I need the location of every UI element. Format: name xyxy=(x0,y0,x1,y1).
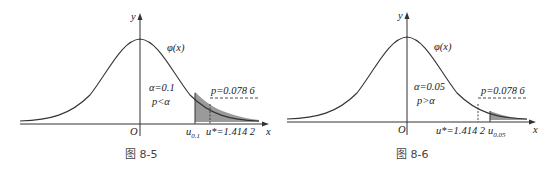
caption-8-6: 图 8-6 xyxy=(396,145,428,161)
alpha-label: α=0.05 xyxy=(414,82,445,93)
y-axis-label: y xyxy=(398,11,403,22)
caption-8-5: 图 8-5 xyxy=(125,145,157,161)
ustar-label: u*=1.414 2 xyxy=(436,126,485,137)
curve-label: φ(x) xyxy=(434,42,451,53)
figures-canvas xyxy=(0,0,554,173)
curve-label: φ(x) xyxy=(167,43,184,54)
critical-value-label: u0.05 xyxy=(488,126,506,139)
relation-label: p<α xyxy=(152,97,170,108)
alpha-label: α=0.1 xyxy=(149,83,175,94)
relation-label: p>α xyxy=(417,96,435,107)
y-axis-label: y xyxy=(131,12,136,23)
figure-8-5-plot xyxy=(20,13,269,136)
origin-label: O xyxy=(398,125,406,136)
origin-label: O xyxy=(130,127,138,138)
x-axis-label: x xyxy=(533,125,538,136)
figure-8-6-plot xyxy=(287,12,536,135)
ustar-label: u*=1.414 2 xyxy=(206,127,255,138)
critical-value-label: u0.1 xyxy=(186,127,200,140)
x-axis-label: x xyxy=(266,127,271,138)
y-axis-arrow-icon xyxy=(138,13,143,20)
p-value-label: p=0.078 6 xyxy=(481,86,525,97)
y-axis-arrow-icon xyxy=(405,12,410,19)
p-value-label: p=0.078 6 xyxy=(211,86,255,97)
